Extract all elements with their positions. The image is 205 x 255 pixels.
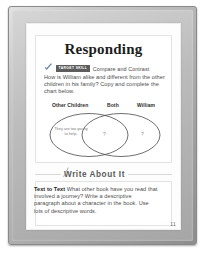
venn-label-left: Other Children bbox=[52, 102, 88, 108]
book-page: Responding TARGET SKILL Compare and Cont… bbox=[26, 23, 181, 230]
prompt-paragraph: How is William alike and different from … bbox=[44, 74, 166, 96]
venn-middle-note: ? bbox=[103, 131, 106, 137]
target-skill-row: TARGET SKILL Compare and Contrast bbox=[44, 63, 149, 72]
page-title: Responding bbox=[36, 41, 171, 58]
venn-label-middle: Both bbox=[107, 102, 119, 108]
heading-rule-left bbox=[35, 174, 61, 175]
venn-ellipse-right bbox=[82, 114, 160, 157]
page-number: 11 bbox=[170, 221, 176, 227]
venn-label-row: Other Children Both William bbox=[44, 102, 165, 110]
heading-rule-right bbox=[128, 174, 172, 175]
skill-name-label: Compare and Contrast bbox=[93, 66, 150, 72]
check-icon bbox=[44, 63, 53, 72]
responding-card: Responding TARGET SKILL Compare and Cont… bbox=[35, 35, 172, 163]
e-reader-device: Responding TARGET SKILL Compare and Cont… bbox=[8, 6, 197, 245]
pencil-icon bbox=[62, 167, 70, 178]
write-about-lead-in: Text to Text bbox=[34, 186, 65, 192]
write-about-title: Write About It bbox=[64, 170, 125, 179]
venn-right-note: ? bbox=[141, 131, 144, 137]
venn-left-note: They are too young to help. bbox=[54, 126, 88, 136]
venn-label-right: William bbox=[137, 102, 155, 108]
write-about-heading: Write About It bbox=[35, 168, 172, 180]
write-about-paragraph: Text to Text What other book have you re… bbox=[34, 186, 158, 215]
target-skill-badge: TARGET SKILL bbox=[56, 65, 90, 72]
venn-diagram: They are too young to help. ? ? bbox=[44, 110, 166, 160]
